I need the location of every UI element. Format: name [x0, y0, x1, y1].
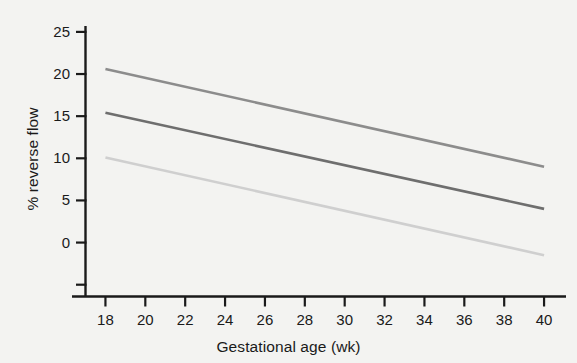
chart-plot-area [0, 0, 577, 363]
y-tick-label: 25 [20, 23, 70, 40]
y-axis-title: % reverse flow [24, 74, 42, 244]
x-tick-label: 40 [519, 311, 569, 328]
x-axis-title: Gestational age (wk) [0, 338, 577, 356]
series-line-middle [105, 113, 544, 209]
series-line-lower [105, 157, 544, 255]
data-series-group [105, 69, 544, 255]
series-line-upper [105, 69, 544, 167]
chart-figure: 0510152025 182022242628303234363840 % re… [0, 0, 577, 363]
